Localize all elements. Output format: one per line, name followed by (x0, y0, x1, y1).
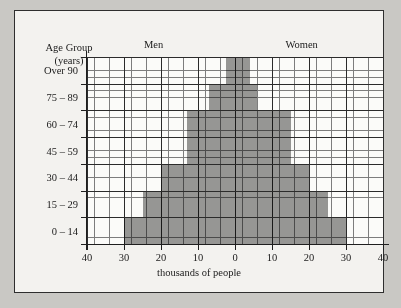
chart-frame: Age Group (years) Men Women 0 – 1415 – 2… (14, 10, 384, 293)
x-axis-tick (198, 244, 199, 250)
bar-men (161, 164, 235, 191)
bar-women (235, 191, 328, 218)
y-axis-tick-label: 60 – 74 (47, 118, 79, 129)
x-axis-tick (235, 244, 236, 250)
legend-women: Women (285, 39, 317, 50)
x-axis-tick-label: 20 (304, 252, 315, 263)
y-axis-tick (81, 110, 87, 111)
y-axis (86, 51, 87, 250)
y-axis-tick-label: 15 – 29 (47, 198, 79, 209)
x-axis-tick-label: 40 (82, 252, 93, 263)
row-separator (87, 57, 383, 58)
x-axis-tick (309, 244, 310, 250)
bar-men (187, 110, 235, 137)
row-separator (87, 84, 383, 85)
bar-women (235, 217, 346, 244)
bar-women (235, 84, 257, 111)
x-axis-title: thousands of people (15, 267, 383, 278)
y-axis-tick-label: Over 90 (44, 65, 78, 76)
row-separator (87, 164, 383, 165)
x-axis-tick (161, 244, 162, 250)
bar-women (235, 110, 291, 137)
bars-layer (87, 57, 383, 244)
bar-men (124, 217, 235, 244)
x-axis-tick-label: 40 (378, 252, 389, 263)
x-axis-tick-label: 20 (156, 252, 167, 263)
legend-men: Men (144, 39, 163, 50)
bar-men (143, 191, 236, 218)
y-axis-tick (81, 57, 87, 58)
bar-men (187, 137, 235, 164)
x-axis-tick-label: 0 (232, 252, 237, 263)
row-separator (87, 217, 383, 218)
y-axis-tick-label: 30 – 44 (47, 172, 79, 183)
y-axis-tick (81, 164, 87, 165)
bar-men (226, 57, 235, 84)
y-axis-tick-label: 75 – 89 (47, 92, 79, 103)
x-axis-tick (383, 244, 384, 250)
row-separator (87, 110, 383, 111)
y-axis-tick (81, 217, 87, 218)
x-axis-tick-label: 30 (119, 252, 130, 263)
x-axis-tick (346, 244, 347, 250)
row-separator (87, 137, 383, 138)
y-axis-tick (81, 137, 87, 138)
x-axis-tick (124, 244, 125, 250)
bar-women (235, 164, 309, 191)
bar-women (235, 137, 291, 164)
y-axis-title-line1: Age Group (33, 41, 105, 54)
bar-men (209, 84, 235, 111)
x-axis-tick (87, 244, 88, 250)
y-axis-tick-label: 45 – 59 (47, 145, 79, 156)
row-separator (87, 191, 383, 192)
x-axis-tick-label: 30 (341, 252, 352, 263)
x-axis-tick (272, 244, 273, 250)
y-axis-tick (81, 191, 87, 192)
y-axis-tick (81, 84, 87, 85)
x-axis-tick-label: 10 (193, 252, 204, 263)
bar-women (235, 57, 250, 84)
plot-area: 0 – 1415 – 2930 – 4445 – 5960 – 7475 – 8… (87, 57, 383, 244)
x-axis-tick-label: 10 (267, 252, 278, 263)
y-axis-tick-label: 0 – 14 (52, 225, 78, 236)
